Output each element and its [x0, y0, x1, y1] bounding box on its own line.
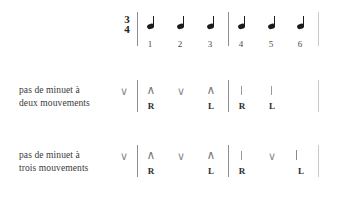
quarter-note: [147, 16, 157, 34]
beat-symbol: ∨: [266, 151, 278, 162]
row-label-line1: pas de minuet à: [19, 84, 90, 97]
quarter-note: [268, 16, 278, 34]
beat-number: 4: [236, 39, 246, 49]
foot-letter: R: [145, 101, 157, 111]
barline-right: [318, 80, 319, 112]
beat-hook-icon: [296, 150, 297, 160]
beat-number: 3: [205, 39, 215, 49]
beat-tick-icon: [271, 86, 272, 95]
beat-number: 1: [145, 39, 155, 49]
beat-symbol: ∧: [205, 85, 217, 96]
barline-left: [137, 80, 138, 112]
foot-letter: L: [205, 166, 217, 176]
foot-letter: R: [145, 166, 157, 176]
quarter-note: [177, 16, 187, 34]
barline-middle: [228, 145, 229, 177]
barline-middle: [228, 12, 229, 46]
note-stem-icon: [244, 16, 245, 27]
beat-tick-icon: [241, 86, 242, 95]
foot-letter: R: [236, 101, 248, 111]
beat-symbol: ∧: [145, 85, 157, 96]
row-label-line1: pas de minuet à: [19, 149, 88, 162]
foot-letter: L: [266, 101, 278, 111]
barline-right: [318, 145, 319, 177]
row-label-deux-mouvements: pas de minuet à deux mouvements: [19, 84, 90, 109]
barline-left: [137, 145, 138, 177]
beat-symbol: ∨: [175, 151, 187, 162]
foot-letter: L: [205, 101, 217, 111]
foot-letter: R: [236, 166, 248, 176]
barline-middle: [228, 80, 229, 112]
row-label-trois-mouvements: pas de minuet à trois mouvements: [19, 149, 88, 174]
beat-symbol: ∧: [145, 150, 157, 161]
quarter-note: [238, 16, 248, 34]
time-signature-denominator: 4: [121, 25, 133, 35]
upbeat-symbol: ∨: [118, 86, 130, 97]
quarter-note: [207, 16, 217, 34]
beat-number: 5: [266, 39, 276, 49]
row-label-line2: trois mouvements: [19, 162, 88, 175]
note-stem-icon: [153, 16, 154, 27]
quarter-note: [297, 16, 307, 34]
time-signature: 3 4: [121, 15, 133, 34]
note-stem-icon: [303, 16, 304, 27]
beat-number: 6: [295, 39, 305, 49]
foot-letter: L: [295, 166, 307, 176]
beat-symbol: ∧: [205, 150, 217, 161]
beat-symbol: ∨: [175, 86, 187, 97]
barline-right: [318, 12, 319, 46]
note-stem-icon: [213, 16, 214, 27]
upbeat-symbol: ∨: [118, 151, 130, 162]
barline-left: [137, 12, 138, 46]
note-stem-icon: [274, 16, 275, 27]
beat-number: 2: [175, 39, 185, 49]
beat-tick-icon: [241, 151, 242, 160]
note-stem-icon: [183, 16, 184, 27]
row-label-line2: deux mouvements: [19, 97, 90, 110]
